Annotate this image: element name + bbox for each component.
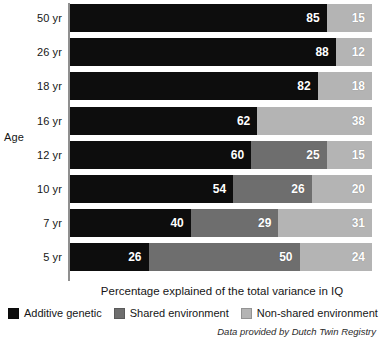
bar-row-label: 12 yr xyxy=(0,141,62,169)
bar-segment-non-shared-environment: 15 xyxy=(327,4,372,32)
bar-row: 26 yr8812 xyxy=(0,38,384,66)
bar-segment-non-shared-environment: 15 xyxy=(327,141,372,169)
bar-row: 18 yr8218 xyxy=(0,72,384,100)
bar-segment-non-shared-environment: 12 xyxy=(336,38,372,66)
bar-segment-additive-genetic: 62 xyxy=(70,107,257,135)
legend-swatch-icon xyxy=(114,308,125,319)
bar-segment-additive-genetic: 40 xyxy=(70,209,191,237)
legend-swatch-icon xyxy=(8,308,19,319)
bar-track: 402931 xyxy=(70,209,372,237)
bar-track: 8515 xyxy=(70,4,372,32)
bar-segment-non-shared-environment: 38 xyxy=(257,107,372,135)
bar-track: 602515 xyxy=(70,141,372,169)
bar-rows: 50 yr851526 yr881218 yr821816 yr623812 y… xyxy=(0,0,384,283)
legend-item: Shared environment xyxy=(114,307,229,319)
bar-track: 265024 xyxy=(70,243,372,271)
bar-row-label: 5 yr xyxy=(0,243,62,271)
x-axis-caption: Percentage explained of the total varian… xyxy=(68,285,376,297)
bar-segment-additive-genetic: 85 xyxy=(70,4,327,32)
bar-segment-shared-environment: 26 xyxy=(233,175,312,203)
legend-label: Non-shared environment xyxy=(257,307,378,319)
bar-row-label: 16 yr xyxy=(0,107,62,135)
bar-row-label: 10 yr xyxy=(0,175,62,203)
legend-swatch-icon xyxy=(241,308,252,319)
legend-label: Shared environment xyxy=(130,307,229,319)
bar-segment-non-shared-environment: 18 xyxy=(318,72,372,100)
bar-row-label: 18 yr xyxy=(0,72,62,100)
legend-item: Additive genetic xyxy=(8,307,102,319)
bar-segment-non-shared-environment: 31 xyxy=(278,209,372,237)
bar-segment-shared-environment: 25 xyxy=(251,141,327,169)
legend-item: Non-shared environment xyxy=(241,307,378,319)
bar-segment-additive-genetic: 88 xyxy=(70,38,336,66)
bar-row: 5 yr265024 xyxy=(0,243,384,271)
bar-row-label: 7 yr xyxy=(0,209,62,237)
bar-row: 7 yr402931 xyxy=(0,209,384,237)
source-note: Data provided by Dutch Twin Registry xyxy=(217,326,376,337)
bar-segment-additive-genetic: 26 xyxy=(70,243,149,271)
bar-segment-shared-environment: 50 xyxy=(149,243,300,271)
bar-track: 8218 xyxy=(70,72,372,100)
bar-track: 8812 xyxy=(70,38,372,66)
bar-row: 12 yr602515 xyxy=(0,141,384,169)
bar-segment-non-shared-environment: 24 xyxy=(300,243,372,271)
bar-track: 6238 xyxy=(70,107,372,135)
bar-row-label: 26 yr xyxy=(0,38,62,66)
bar-row: 10 yr542620 xyxy=(0,175,384,203)
plot-area: Age 50 yr851526 yr881218 yr821816 yr6238… xyxy=(0,0,384,283)
bar-segment-additive-genetic: 54 xyxy=(70,175,233,203)
bar-segment-non-shared-environment: 20 xyxy=(312,175,372,203)
bar-segment-shared-environment: 29 xyxy=(191,209,279,237)
legend-label: Additive genetic xyxy=(24,307,102,319)
bar-row: 50 yr8515 xyxy=(0,4,384,32)
bar-segment-additive-genetic: 82 xyxy=(70,72,318,100)
bar-row-label: 50 yr xyxy=(0,4,62,32)
stacked-bar-chart: Age 50 yr851526 yr881218 yr821816 yr6238… xyxy=(0,0,384,343)
chart-legend: Additive geneticShared environmentNon-sh… xyxy=(8,307,382,319)
bar-row: 16 yr6238 xyxy=(0,107,384,135)
bar-segment-additive-genetic: 60 xyxy=(70,141,251,169)
bar-track: 542620 xyxy=(70,175,372,203)
